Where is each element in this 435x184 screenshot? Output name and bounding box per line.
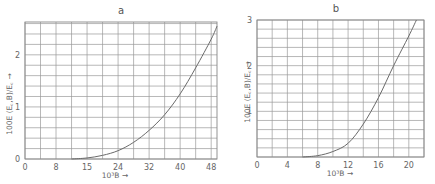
x-tick-label: 40 [175,163,185,172]
x-tick-label: 48 [206,163,216,172]
grid-a [25,22,217,159]
chart-panel-a: 081524324048 012 a 10³B → 100E (E꜀,B)/E꜀… [5,5,217,180]
y-tick-label: 3 [247,16,252,25]
plot-frame-b [257,20,424,157]
y-tick-label: 2 [15,51,20,60]
y-tick-labels-a: 012 [15,51,20,164]
x-tick-label: 20 [404,161,414,170]
data-curve-b [303,20,417,157]
y-tick-label: 0 [15,155,20,164]
x-tick-label: 4 [285,161,290,170]
x-tick-label: 32 [144,163,154,172]
chart-figure: 081524324048 012 a 10³B → 100E (E꜀,B)/E꜀… [0,0,435,184]
y-tick-label: 1 [15,103,20,112]
x-tick-label: 8 [53,163,58,172]
x-axis-label-a: 10³B → [102,171,128,180]
chart-panel-b: 048121620 123 b 10³B → 100E (E꜀,B)/E꜀ → [243,3,424,178]
grid-b [257,20,424,157]
y-axis-label-b: 100E (E꜀,B)/E꜀ → [243,61,252,123]
chart-title-b: b [333,3,339,14]
x-tick-label: 0 [254,161,259,170]
x-tick-label: 16 [373,161,383,170]
chart-title-a: a [118,5,124,16]
x-axis-label-b: 10³B → [327,169,353,178]
x-tick-label: 0 [22,163,27,172]
x-tick-label: 15 [82,163,92,172]
data-curve-a [72,26,217,159]
y-axis-label-a: 100E (E꜀,B)/E꜀ → [5,73,14,135]
x-tick-label: 8 [315,161,320,170]
